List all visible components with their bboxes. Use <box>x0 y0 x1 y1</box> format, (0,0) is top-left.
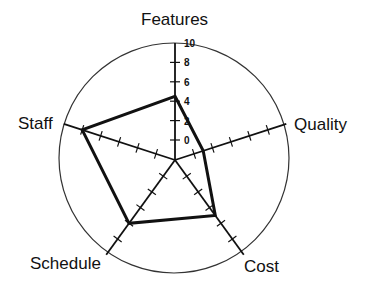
tick-mark <box>114 236 122 242</box>
tick-mark <box>159 173 167 179</box>
axis-label-features: Features <box>141 11 208 28</box>
tick-mark <box>148 189 156 195</box>
axis-label-cost: Cost <box>244 258 279 275</box>
tick-mark <box>217 220 225 226</box>
tick-label: 4 <box>184 96 190 107</box>
tick-label: 8 <box>184 57 190 68</box>
axis-label-staff: Staff <box>18 115 53 132</box>
data-polygon <box>82 96 215 223</box>
tick-mark <box>194 189 202 195</box>
axis-label-quality: Quality <box>294 116 347 133</box>
tick-mark <box>136 205 144 211</box>
tick-label: 10 <box>184 38 196 49</box>
tick-label: 6 <box>184 77 190 88</box>
axis-label-schedule: Schedule <box>30 255 101 272</box>
radar-chart: 0246810 <box>0 0 370 291</box>
tick-label: 0 <box>184 135 190 146</box>
tick-mark <box>228 236 236 242</box>
tick-mark <box>183 173 191 179</box>
outer-circle <box>59 43 289 273</box>
